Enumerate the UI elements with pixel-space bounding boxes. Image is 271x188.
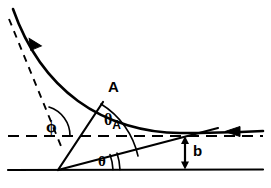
scattering-diagram: A ϕ θA θ b xyxy=(0,0,271,188)
label-angle-phi: ϕ xyxy=(46,118,57,135)
horizontal-solid-baseline xyxy=(8,170,263,171)
label-impact-parameter: b xyxy=(193,143,202,158)
outgoing-direction-arrow xyxy=(29,37,42,50)
label-angle-theta-A-subscript: A xyxy=(112,118,121,132)
impact-parameter-arrow-head-down xyxy=(181,162,189,170)
theta-angle-arc-outer xyxy=(117,153,120,170)
label-point-A: A xyxy=(108,79,119,94)
diagram-canvas xyxy=(0,0,271,188)
hyperbolic-trajectory xyxy=(13,9,263,133)
label-angle-theta-A: θA xyxy=(104,112,121,131)
label-angle-theta: θ xyxy=(98,154,106,169)
